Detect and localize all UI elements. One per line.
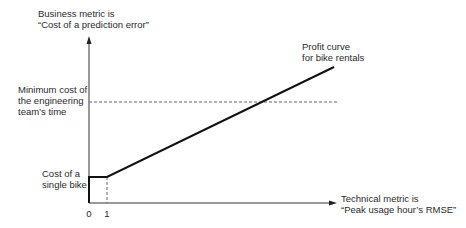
x-tick-0: 0 [86, 208, 91, 219]
x-tick-1: 1 [104, 208, 109, 219]
y-axis-label-line2: “Cost of a prediction error” [38, 19, 149, 30]
x-axis-label: Technical metric is “Peak usage hour’s R… [341, 193, 456, 215]
min-cost-line1: Minimum cost of [18, 84, 87, 95]
min-cost-label: Minimum cost of the engineering team’s t… [18, 84, 87, 117]
profit-curve-line2: for bike rentals [302, 52, 364, 63]
min-cost-line2: the engineering [18, 95, 87, 106]
single-bike-line2: single bike [42, 179, 87, 190]
profit-curve-line1: Profit curve [302, 41, 364, 52]
single-bike-line1: Cost of a [42, 168, 87, 179]
x-axis-label-line1: Technical metric is [341, 193, 456, 204]
y-axis-label: Business metric is “Cost of a prediction… [38, 8, 149, 30]
min-cost-line3: team’s time [18, 106, 87, 117]
y-axis-label-line1: Business metric is [38, 8, 149, 19]
x-axis-label-line2: “Peak usage hour’s RMSE” [341, 204, 456, 215]
x-axis-arrow-icon [329, 201, 337, 206]
profit-curve [89, 67, 334, 203]
y-axis-arrow-icon [87, 36, 92, 44]
single-bike-label: Cost of a single bike [42, 168, 87, 190]
profit-curve-label: Profit curve for bike rentals [302, 41, 364, 63]
